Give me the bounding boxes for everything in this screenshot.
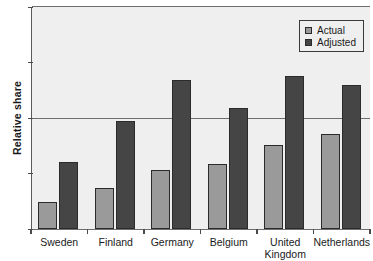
x-tick bbox=[313, 229, 314, 234]
bar-actual-united-kingdom[interactable] bbox=[264, 145, 283, 229]
x-category-label-line1: Netherlands bbox=[313, 236, 370, 248]
bar-adjusted-germany[interactable] bbox=[172, 80, 191, 229]
legend-label: Actual bbox=[317, 25, 345, 36]
legend-swatch-actual-icon bbox=[305, 27, 312, 34]
bar-adjusted-united-kingdom[interactable] bbox=[285, 76, 304, 229]
x-tick bbox=[200, 229, 201, 234]
bar-adjusted-sweden[interactable] bbox=[59, 162, 78, 229]
bar-group bbox=[89, 7, 146, 229]
bar-adjusted-netherlands[interactable] bbox=[342, 85, 361, 229]
legend[interactable]: ActualAdjusted bbox=[299, 20, 364, 52]
legend-item-actual[interactable]: Actual bbox=[305, 24, 356, 36]
bar-group bbox=[32, 7, 89, 229]
legend-item-adjusted[interactable]: Adjusted bbox=[305, 36, 356, 48]
x-tick bbox=[256, 229, 257, 234]
x-category-label-netherlands: Netherlands bbox=[296, 236, 373, 248]
bar-actual-germany[interactable] bbox=[151, 170, 170, 229]
bar-adjusted-finland[interactable] bbox=[116, 121, 135, 229]
bar-actual-belgium[interactable] bbox=[208, 164, 227, 229]
x-tick bbox=[143, 229, 144, 234]
plot-area: ActualAdjusted bbox=[31, 7, 370, 229]
x-category-label-line2: Kingdom bbox=[239, 248, 331, 260]
bar-group bbox=[145, 7, 202, 229]
legend-swatch-adjusted-icon bbox=[305, 39, 312, 46]
legend-label: Adjusted bbox=[317, 37, 356, 48]
bar-adjusted-belgium[interactable] bbox=[229, 108, 248, 229]
bar-actual-sweden[interactable] bbox=[38, 202, 57, 229]
bar-actual-netherlands[interactable] bbox=[321, 134, 340, 229]
bar-actual-finland[interactable] bbox=[95, 188, 114, 229]
x-tick bbox=[87, 229, 88, 234]
x-tick bbox=[30, 229, 31, 234]
y-axis-title: Relative share bbox=[11, 63, 23, 173]
x-tick bbox=[369, 229, 370, 234]
bar-chart-figure: Relative share 012 ActualAdjusted Sweden… bbox=[0, 0, 373, 261]
bar-group bbox=[202, 7, 259, 229]
